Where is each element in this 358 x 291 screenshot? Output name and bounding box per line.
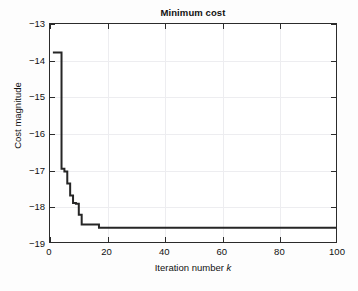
x-tick-label: 0 <box>46 246 51 257</box>
x-axis-tick-labels: 020406080100 <box>49 246 337 260</box>
chart-title: Minimum cost <box>49 7 337 18</box>
x-axis-title-variable: k <box>227 262 232 273</box>
x-tick-label: 100 <box>329 246 345 257</box>
y-tick-label: −18 <box>29 201 45 212</box>
x-tick-label: 80 <box>274 246 285 257</box>
x-axis-title: Iteration number k <box>49 262 337 273</box>
y-tick-label: −13 <box>29 18 45 29</box>
chart-figure: Minimum cost −13−14−15−16−17−18−19 02040… <box>0 0 358 291</box>
x-tick-label: 40 <box>159 246 170 257</box>
plot-area <box>49 23 337 243</box>
y-tick-label: −14 <box>29 54 45 65</box>
y-tick-label: −16 <box>29 128 45 139</box>
y-tick-label: −15 <box>29 91 45 102</box>
y-axis-title: Cost magnitude <box>12 61 23 171</box>
data-series-line <box>50 24 337 243</box>
y-tick-label: −17 <box>29 164 45 175</box>
y-tick-label: −19 <box>29 238 45 249</box>
x-tick-label: 60 <box>217 246 228 257</box>
x-tick-label: 20 <box>101 246 112 257</box>
